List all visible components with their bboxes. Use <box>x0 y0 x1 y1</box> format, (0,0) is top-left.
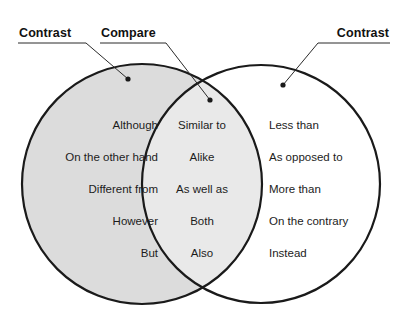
left-word: On the other hand <box>65 151 158 163</box>
intersection-word: Also <box>191 247 213 259</box>
label-center-compare: Compare <box>101 26 156 40</box>
left-word: But <box>141 247 159 259</box>
venn-diagram: Contrast Compare Contrast Although On th… <box>0 0 401 326</box>
venn-diagram-canvas: Contrast Compare Contrast Although On th… <box>0 0 401 326</box>
compare-leader-dot <box>207 97 212 102</box>
label-right-contrast: Contrast <box>337 26 390 40</box>
intersection-word: Similar to <box>178 119 226 131</box>
right-word: As opposed to <box>269 151 343 163</box>
intersection-word: Alike <box>190 151 215 163</box>
right-word: Instead <box>269 247 307 259</box>
left-word: Different from <box>89 183 158 195</box>
right-word: More than <box>269 183 321 195</box>
left-contrast-leader-dot <box>125 76 130 81</box>
right-contrast-leader-dot <box>280 82 285 87</box>
left-word: However <box>113 215 159 227</box>
right-word: On the contrary <box>269 215 349 227</box>
intersection-word: As well as <box>176 183 228 195</box>
right-word: Less than <box>269 119 319 131</box>
intersection-word: Both <box>190 215 214 227</box>
label-left-contrast: Contrast <box>19 26 72 40</box>
left-word: Although <box>113 119 158 131</box>
